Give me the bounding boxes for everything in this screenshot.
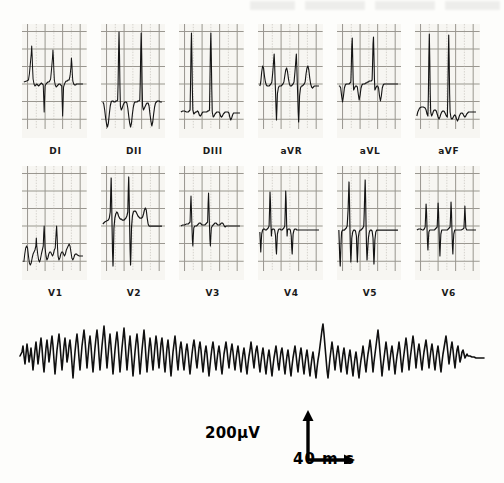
lead-panel-avr: aVR	[252, 24, 331, 156]
lead-label-v1: V1	[16, 288, 95, 298]
rhythm-strip-trace	[18, 312, 488, 402]
lead-label-v6: V6	[409, 288, 488, 298]
voltage-scale-label: 200µV	[205, 424, 260, 442]
ecg-trace-v4	[258, 166, 323, 280]
ecg-trace-v6	[415, 166, 480, 280]
ecg-trace-v2	[101, 166, 166, 280]
lead-plot-dii	[101, 24, 166, 138]
lead-panel-v3: V3	[173, 166, 252, 298]
lead-label-avr: aVR	[252, 146, 331, 156]
ecg-trace-v1	[22, 166, 87, 280]
lead-panel-v2: V2	[95, 166, 174, 298]
lead-panel-v1: V1	[16, 166, 95, 298]
ecg-trace-di	[22, 24, 87, 138]
precordial-leads-row: V1	[16, 166, 488, 298]
lead-panel-diii: DIII	[173, 24, 252, 156]
lead-panel-avf: aVF	[409, 24, 488, 156]
lead-panel-avl: aVL	[331, 24, 410, 156]
lead-panel-dii: DII	[95, 24, 174, 156]
lead-plot-v3	[179, 166, 244, 280]
lead-label-di: DI	[16, 146, 95, 156]
lead-plot-v5	[337, 166, 402, 280]
ecg-trace-avl	[337, 24, 402, 138]
lead-label-avf: aVF	[409, 146, 488, 156]
lead-label-v3: V3	[173, 288, 252, 298]
lead-label-v4: V4	[252, 288, 331, 298]
lead-plot-v6	[415, 166, 480, 280]
lead-label-v5: V5	[331, 288, 410, 298]
lead-panel-v6: V6	[409, 166, 488, 298]
ecg-trace-v5	[337, 166, 402, 280]
lead-panel-v4: V4	[252, 166, 331, 298]
lead-label-diii: DIII	[173, 146, 252, 156]
ecg-trace-diii	[179, 24, 244, 138]
ecg-figure: DI	[0, 0, 504, 483]
lead-plot-v1	[22, 166, 87, 280]
lead-plot-avr	[258, 24, 323, 138]
limb-leads-row: DI	[16, 24, 488, 156]
lead-plot-avf	[415, 24, 480, 138]
time-scale-label: 40 m s	[293, 450, 355, 468]
faded-header-text	[250, 1, 500, 10]
lead-plot-avl	[337, 24, 402, 138]
ecg-trace-v3	[179, 166, 244, 280]
lead-plot-v2	[101, 166, 166, 280]
lead-panel-di: DI	[16, 24, 95, 156]
ecg-trace-avf	[415, 24, 480, 138]
ecg-trace-avr	[258, 24, 323, 138]
lead-label-dii: DII	[95, 146, 174, 156]
lead-plot-di	[22, 24, 87, 138]
ecg-trace-dii	[101, 24, 166, 138]
calibration-scale-bar: 200µV 40 m s	[205, 406, 375, 472]
lead-label-v2: V2	[95, 288, 174, 298]
lead-panel-v5: V5	[331, 166, 410, 298]
lead-label-avl: aVL	[331, 146, 410, 156]
lead-plot-diii	[179, 24, 244, 138]
lead-plot-v4	[258, 166, 323, 280]
signal-averaged-rhythm-strip	[18, 312, 488, 402]
